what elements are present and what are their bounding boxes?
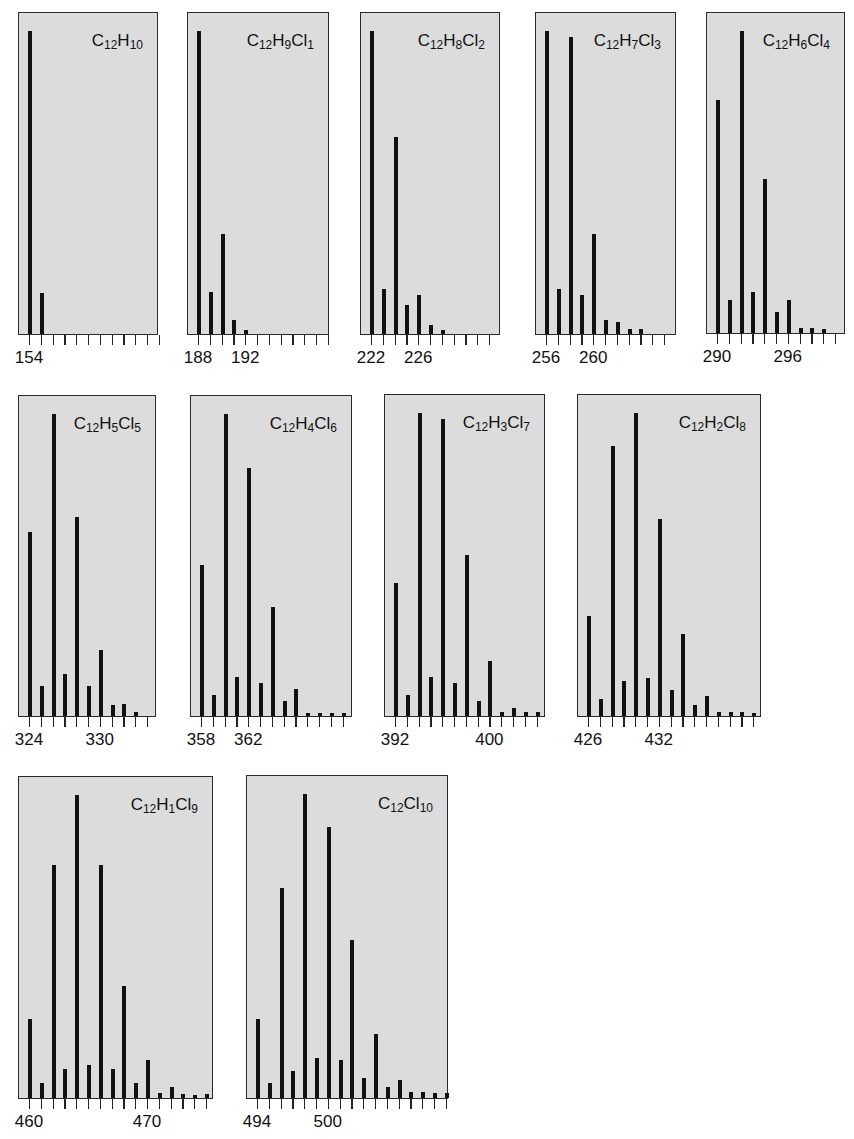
intensity-bar	[87, 686, 91, 716]
intensity-bar	[350, 940, 354, 1098]
axis-tick	[159, 335, 160, 345]
intensity-bar	[342, 713, 346, 716]
intensity-bar	[63, 674, 67, 716]
axis-tick	[729, 334, 730, 344]
axis-tick	[477, 335, 478, 345]
formula-label: C12H4Cl6	[270, 414, 337, 434]
axis-tick	[328, 1099, 329, 1109]
intensity-bar	[212, 695, 216, 716]
axis-tick	[788, 334, 789, 344]
axis-tick	[198, 335, 199, 345]
axis-tick	[706, 717, 707, 727]
intensity-bar	[477, 701, 481, 716]
plot-area: C12H8Cl2	[360, 12, 500, 335]
intensity-bar	[717, 712, 721, 716]
intensity-bar	[99, 650, 103, 716]
intensity-bar	[557, 289, 561, 334]
spectrum-panel: C12H10154	[18, 12, 158, 375]
axis-tick	[147, 335, 148, 345]
axis-tick	[741, 717, 742, 727]
axis-tick	[292, 335, 293, 345]
axis-tick	[100, 717, 101, 727]
intensity-bar	[40, 293, 44, 334]
axis-tick	[316, 1099, 317, 1109]
axis-tick	[501, 717, 502, 727]
intensity-bar	[587, 616, 591, 716]
intensity-bar	[382, 289, 386, 334]
formula-label: C12H2Cl8	[679, 413, 746, 433]
axis-tick	[593, 335, 594, 345]
axis-tick	[53, 717, 54, 727]
axis-tick	[236, 717, 237, 727]
intensity-bar	[306, 713, 310, 716]
axis-tick	[546, 335, 547, 345]
axis-tick	[222, 335, 223, 345]
intensity-bar	[512, 708, 516, 716]
intensity-bar	[441, 419, 445, 716]
axis-tick	[112, 1099, 113, 1109]
spectrum-panel: C12H9Cl1188192	[187, 12, 329, 375]
intensity-bar	[453, 683, 457, 716]
axis-tick	[612, 717, 613, 727]
spectrum-panel: C12H2Cl8426432	[577, 394, 761, 757]
intensity-bar	[429, 677, 433, 716]
intensity-bar	[599, 699, 603, 716]
axis-tick	[752, 334, 753, 344]
intensity-bar	[362, 1078, 366, 1098]
axis-tick	[465, 335, 466, 345]
intensity-bar	[268, 1083, 272, 1098]
plot-area: C12Cl10	[246, 775, 448, 1099]
axis-tick	[442, 717, 443, 727]
axis-tick	[29, 1099, 30, 1109]
plot-area: C12H7Cl3	[535, 12, 676, 335]
intensity-bar	[751, 292, 755, 333]
axis-tick	[664, 335, 665, 345]
intensity-bar	[28, 532, 32, 716]
axis-tick	[100, 1099, 101, 1109]
axis-tick	[363, 1099, 364, 1109]
axis-tick	[284, 717, 285, 727]
plot-area: C12H9Cl1	[187, 12, 329, 335]
tick-label: 460	[15, 1113, 43, 1130]
intensity-bar	[40, 686, 44, 716]
intensity-bar	[111, 1069, 115, 1098]
intensity-bar	[271, 607, 275, 716]
intensity-bar	[810, 328, 814, 333]
intensity-bar	[658, 519, 662, 716]
intensity-bar	[693, 705, 697, 716]
axis-tick	[525, 717, 526, 727]
axis-tick	[29, 717, 30, 727]
axis-tick	[76, 717, 77, 727]
axis-tick	[248, 717, 249, 727]
axis-tick	[257, 335, 258, 345]
axis-tick	[570, 335, 571, 345]
axis-tick	[717, 334, 718, 344]
axis-tick	[351, 1099, 352, 1109]
axis-tick	[635, 717, 636, 727]
axis-tick	[478, 717, 479, 727]
formula-label: C12H10	[92, 31, 143, 51]
axis-tick	[53, 335, 54, 345]
axis-tick	[304, 1099, 305, 1109]
axis-tick	[260, 717, 261, 727]
axis-tick	[647, 717, 648, 727]
plot-area: C12H10	[18, 12, 158, 335]
intensity-bar	[209, 292, 213, 334]
tick-label: 500	[314, 1113, 342, 1130]
intensity-bar	[232, 320, 236, 334]
axis-tick	[213, 717, 214, 727]
axis-tick	[753, 717, 754, 727]
tick-label: 260	[579, 349, 607, 366]
formula-label: C12H5Cl5	[74, 414, 141, 434]
intensity-bar	[545, 31, 549, 334]
axis-tick	[41, 717, 42, 727]
intensity-bar	[406, 695, 410, 716]
formula-label: C12H1Cl9	[131, 795, 198, 815]
intensity-bar	[728, 300, 732, 333]
intensity-bar	[646, 678, 650, 716]
axis-tick	[201, 717, 202, 727]
axis-tick	[659, 717, 660, 727]
intensity-bar	[421, 1092, 425, 1098]
axis-tick	[206, 1099, 207, 1109]
axis-tick	[383, 335, 384, 345]
